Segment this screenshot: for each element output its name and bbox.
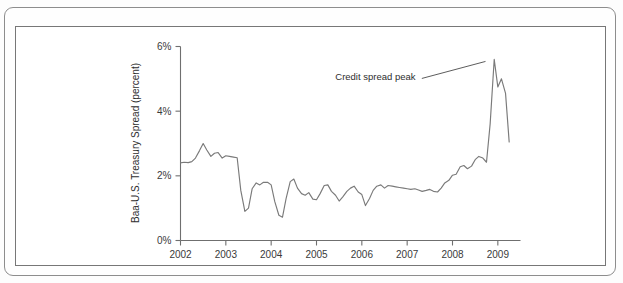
figure-root: 0%2%4%6% 2002200320042005200620072008200… — [0, 0, 623, 283]
y-axis-tick-labels: 0%2%4%6% — [157, 41, 172, 246]
data-series-line — [181, 59, 510, 217]
line-chart: 0%2%4%6% 2002200320042005200620072008200… — [0, 0, 623, 283]
x-axis-tick-label: 2009 — [487, 249, 510, 260]
y-axis-tick-label: 2% — [157, 170, 172, 181]
x-axis-tick-label: 2002 — [169, 249, 192, 260]
x-axis-tick-label: 2007 — [396, 249, 419, 260]
annotation-leader-line — [422, 61, 486, 78]
data-series-group — [181, 59, 510, 217]
y-axis-title: Baa-U.S. Treasury Spread (percent) — [130, 63, 141, 223]
chart-annotation-group: Credit spread peak — [335, 61, 485, 82]
x-axis-tick-label: 2006 — [351, 249, 374, 260]
x-axis-tick-label: 2003 — [215, 249, 238, 260]
y-axis-tick-label: 4% — [157, 106, 172, 117]
annotation-label: Credit spread peak — [335, 71, 416, 82]
y-axis-tick-label: 6% — [157, 41, 172, 52]
y-axis-ticks — [176, 47, 181, 241]
x-axis-tick-label: 2008 — [441, 249, 464, 260]
x-axis-tick-labels: 20022003200420052006200720082009 — [169, 249, 509, 260]
x-axis-tick-label: 2005 — [305, 249, 328, 260]
y-axis-tick-label: 0% — [157, 235, 172, 246]
x-axis-tick-label: 2004 — [260, 249, 283, 260]
x-axis-ticks — [181, 241, 498, 246]
